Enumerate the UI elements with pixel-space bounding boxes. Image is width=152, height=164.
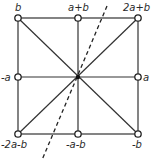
label-2a-plus-b: 2a+b: [123, 2, 150, 13]
node-minus-b: [135, 131, 141, 137]
node-a: [135, 74, 141, 80]
label-minus-2a-minus-b: -2a-b: [1, 139, 27, 150]
node-minus-2a-minus-b: [15, 131, 21, 137]
label-b: b: [15, 2, 21, 13]
lattice-diagram: b a+b 2a+b -a a -2a-b -a-b -b: [0, 0, 152, 164]
node-b: [15, 15, 21, 21]
label-a: a: [143, 72, 149, 83]
node-2a-plus-b: [135, 15, 141, 21]
label-minus-a: -a: [1, 72, 11, 83]
center-point: [76, 75, 80, 79]
node-minus-a-minus-b: [75, 131, 81, 137]
label-minus-a-minus-b: -a-b: [66, 139, 86, 150]
label-minus-b: -b: [132, 139, 142, 150]
dashed-axis-line: [42, 6, 107, 160]
node-minus-a: [15, 74, 21, 80]
node-a-plus-b: [75, 15, 81, 21]
label-a-plus-b: a+b: [68, 2, 89, 13]
